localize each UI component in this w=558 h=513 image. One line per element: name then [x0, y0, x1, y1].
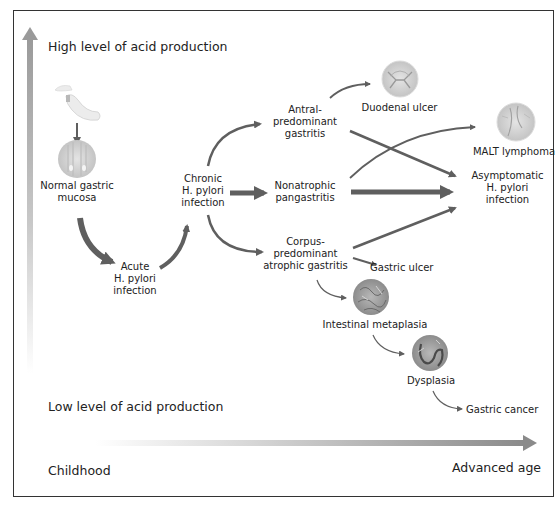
- arrow-chronic-to-antral: [208, 124, 260, 166]
- node-line: Antral-: [270, 104, 340, 116]
- node-line: H. pylori: [465, 182, 550, 194]
- acid-level-axis-arrow: [22, 27, 38, 373]
- node-antral-predominant-gastritis: Antral- predominant gastritis: [270, 104, 340, 140]
- arrow-chronic-to-corpus: [208, 215, 262, 252]
- node-normal-gastric-mucosa: Normal gastric mucosa: [37, 180, 117, 204]
- node-duodenal-ulcer: Duodenal ulcer: [357, 102, 442, 114]
- node-line: Acute: [105, 261, 165, 273]
- childhood-label: Childhood: [48, 464, 111, 478]
- arrow-antral-to-duodenal-ulcer: [330, 84, 370, 98]
- node-line: Asymptomatic: [465, 170, 550, 182]
- node-line: atrophic gastritis: [258, 260, 353, 272]
- arrow-dysplasia-to-gastric-cancer: [433, 391, 462, 409]
- node-acute-infection: Acute H. pylori infection: [105, 261, 165, 297]
- node-line: Chronic: [173, 173, 233, 185]
- node-line: Nonatrophic: [270, 180, 340, 192]
- node-line: infection: [465, 194, 550, 206]
- node-line: H. pylori: [173, 185, 233, 197]
- node-line: infection: [105, 285, 165, 297]
- node-asymptomatic-infection: Asymptomatic H. pylori infection: [465, 170, 550, 206]
- node-nonatrophic-pangastritis: Nonatrophic pangastritis: [270, 180, 340, 204]
- arrow-corpus-to-intestinal-metaplasia: [317, 280, 346, 298]
- node-corpus-predominant-atrophic-gastritis: Corpus- predominant atrophic gastritis: [258, 236, 353, 272]
- node-gastric-cancer: Gastric cancer: [466, 404, 551, 416]
- node-line: mucosa: [37, 192, 117, 204]
- arrow-antral-to-asymptomatic: [350, 131, 455, 176]
- high-acid-label: High level of acid production: [48, 40, 227, 54]
- age-axis-arrow: [95, 435, 537, 451]
- node-line: infection: [173, 197, 233, 209]
- node-line: predominant: [270, 116, 340, 128]
- intestinal-metaplasia-image: [353, 279, 389, 315]
- low-acid-label: Low level of acid production: [48, 400, 223, 414]
- node-intestinal-metaplasia: Intestinal metaplasia: [315, 319, 435, 331]
- advanced-age-label: Advanced age: [452, 461, 541, 475]
- node-line: pangastritis: [270, 192, 340, 204]
- dysplasia-image: [412, 335, 448, 371]
- arrow-nonatrophic-to-malt: [350, 127, 475, 178]
- node-line: Normal gastric: [37, 180, 117, 192]
- node-line: gastritis: [270, 128, 340, 140]
- node-gastric-ulcer: Gastric ulcer: [370, 262, 450, 274]
- node-dysplasia: Dysplasia: [400, 375, 462, 387]
- stomach-icon: [55, 86, 100, 121]
- node-line: H. pylori: [105, 273, 165, 285]
- node-chronic-infection: Chronic H. pylori infection: [173, 173, 233, 209]
- node-line: Corpus-: [258, 236, 353, 248]
- normal-mucosa-image: [58, 140, 96, 178]
- node-malt-lymphoma: MALT lymphoma: [470, 146, 558, 158]
- node-line: predominant: [258, 248, 353, 260]
- duodenal-ulcer-image: [382, 61, 418, 97]
- arrow-corpus-to-asymptomatic: [353, 208, 455, 248]
- malt-lymphoma-image: [497, 103, 535, 141]
- arrow-metaplasia-to-dysplasia: [373, 335, 404, 354]
- arrow-normal-to-acute: [80, 218, 112, 262]
